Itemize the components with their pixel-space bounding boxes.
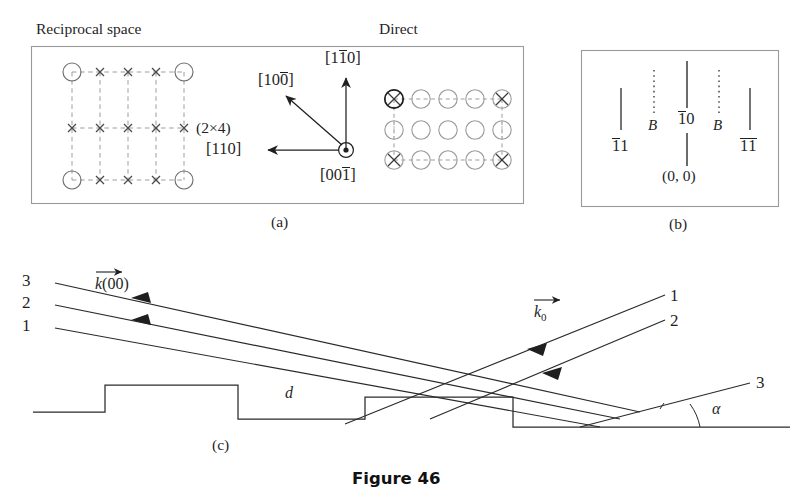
outgoing-beam-label-3: 3 bbox=[22, 272, 31, 289]
outgoing-beam-arrowheads bbox=[131, 292, 151, 325]
axis-label-10-0bar: [100] bbox=[258, 71, 294, 89]
panel-tag-c: (c) bbox=[212, 437, 229, 453]
axis-label-110: [110] bbox=[206, 141, 241, 158]
k0-subscript: 0 bbox=[541, 311, 547, 323]
streak-label-1bar1: 11 bbox=[612, 137, 629, 155]
figure-artwork bbox=[0, 0, 808, 496]
outgoing-beam-label-2: 2 bbox=[22, 294, 31, 311]
streak-label-B-left: B bbox=[648, 118, 657, 133]
angle-label-alpha: α bbox=[712, 401, 720, 417]
stepped-surface-profile bbox=[33, 385, 790, 427]
panel-tag-a: (a) bbox=[271, 214, 288, 230]
k00-vector-label: k(00) bbox=[95, 276, 129, 292]
reciprocal-cross-marks bbox=[68, 68, 188, 184]
axis-label-1-1bar-0: [110] bbox=[325, 49, 361, 67]
outgoing-beams bbox=[55, 283, 640, 427]
streak-label-1bar1bar: 11 bbox=[740, 137, 757, 155]
incoming-beam-3 bbox=[580, 383, 750, 427]
k0-vector-label: k0 bbox=[534, 304, 547, 323]
direct-lattice-atoms bbox=[385, 90, 511, 169]
panel-tag-b: (b) bbox=[669, 216, 687, 232]
incoming-beam-1 bbox=[345, 295, 665, 424]
direct-lattice-center-ticks bbox=[394, 121, 502, 139]
incoming-beams bbox=[345, 295, 750, 427]
step-height-label-d: d bbox=[285, 385, 293, 401]
axis-label-00-1bar: [001] bbox=[320, 166, 356, 184]
streak-label-B-right: B bbox=[713, 118, 722, 133]
incoming-beam-label-2: 2 bbox=[670, 312, 679, 329]
direct-lattice-corner-crosses bbox=[388, 93, 508, 166]
superstructure-label: (2×4) bbox=[196, 120, 231, 136]
k00-argument: (00) bbox=[102, 275, 129, 292]
outgoing-beam-3 bbox=[55, 283, 640, 412]
figure-caption: Figure 46 bbox=[352, 469, 441, 488]
incoming-beam-arrowheads bbox=[527, 343, 562, 380]
incoming-beam-label-3: 3 bbox=[756, 374, 765, 391]
outgoing-beam-label-1: 1 bbox=[22, 317, 31, 334]
panel-b-origin-label: (0, 0) bbox=[662, 168, 696, 184]
figure-46-root: Reciprocal space Direct (2×4) [110] [100… bbox=[0, 0, 808, 496]
reciprocal-grid bbox=[72, 72, 184, 180]
direct-space-header: Direct bbox=[379, 21, 418, 37]
streak-label-1bar0: 10 bbox=[678, 110, 695, 128]
incoming-beam-label-1: 1 bbox=[670, 287, 679, 304]
angle-alpha-arc bbox=[690, 404, 700, 427]
reciprocal-space-header: Reciprocal space bbox=[36, 21, 141, 37]
